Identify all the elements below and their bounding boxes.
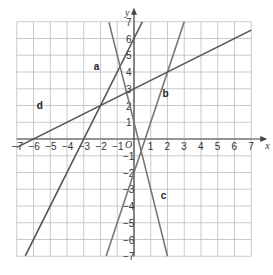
line-label-d: d	[37, 100, 43, 111]
line-label-b: b	[162, 88, 168, 99]
y-tick-label: −1	[123, 151, 135, 162]
x-tick-label: −4	[62, 141, 74, 152]
y-tick-label: 7	[126, 17, 132, 28]
x-tick-label: 7	[248, 141, 254, 152]
x-tick-label: 4	[198, 141, 204, 152]
y-tick-label: 4	[126, 67, 132, 78]
origin-label: O	[125, 139, 132, 150]
x-tick-label: 3	[181, 141, 187, 152]
x-tick-label: 2	[165, 141, 171, 152]
line-label-c: c	[161, 190, 167, 201]
y-tick-label: −7	[123, 251, 135, 262]
x-tick-label: 5	[215, 141, 221, 152]
line-label-a: a	[94, 61, 100, 72]
x-tick-label: 1	[148, 141, 154, 152]
x-tick-label: −5	[45, 141, 57, 152]
y-tick-label: −6	[123, 235, 135, 246]
x-tick-label: 6	[232, 141, 238, 152]
coordinate-plot: xy−7−6−5−4−3−2−11234567−7−6−5−4−3−2−1123…	[0, 0, 273, 275]
x-tick-label: −2	[96, 141, 108, 152]
x-tick-label: −6	[29, 141, 41, 152]
x-axis-label: x	[264, 140, 270, 151]
y-tick-label: −5	[123, 218, 135, 229]
y-axis-arrow-icon	[131, 8, 137, 15]
y-tick-label: 1	[126, 117, 132, 128]
